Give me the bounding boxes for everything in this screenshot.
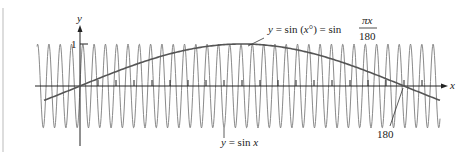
x-axis-arrow-icon (441, 84, 448, 89)
slow-frac-num: πx (362, 14, 373, 26)
slow-curve-label: y = sin (x°) = sin (267, 23, 342, 36)
y-axis-arrow-icon (78, 25, 83, 32)
y-tick-label-1: 1 (71, 38, 77, 50)
slow-frac-den: 180 (359, 30, 376, 42)
sine-comparison-chart: x y 1 y = sin (x°) = sin πx 180 y = sin … (0, 0, 460, 154)
fast-curve-label: y = sin x (220, 136, 258, 148)
x-axis-label: x (449, 79, 455, 91)
intercept-label: 180 (377, 128, 394, 140)
y-axis-label: y (76, 12, 82, 24)
